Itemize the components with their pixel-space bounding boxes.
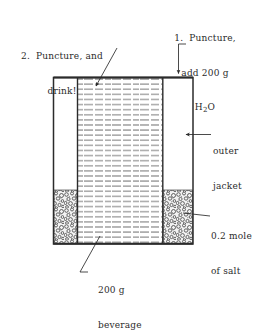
annotation-beverage-line-1: 200 g — [98, 285, 178, 297]
annotation-outer-jacket: outer jacket — [213, 123, 265, 215]
annotation-salt-line-2: of salt — [211, 266, 266, 278]
annotation-outer-jacket-line-2: jacket — [213, 181, 265, 193]
annotation-salt: 0.2 mole of salt — [211, 208, 266, 300]
annotation-step-1-line-1: 1. Puncture, — [166, 33, 244, 45]
salt-bed-left — [54, 190, 77, 244]
annotation-step-1-line-2: add 200 g — [166, 68, 244, 80]
water-formula-prefix: H — [195, 102, 203, 112]
annotation-outer-jacket-line-1: outer — [213, 146, 265, 158]
annotation-step-1: 1. Puncture, add 200 g H2O — [166, 10, 244, 139]
annotation-step-2-line-1: 2. Puncture, and — [6, 51, 118, 63]
annotation-salt-line-1: 0.2 mole — [211, 231, 266, 243]
annotation-beverage: 200 g beverage — [98, 262, 178, 334]
annotation-beverage-line-2: beverage — [98, 320, 178, 332]
annotation-step-2-line-2: drink! — [6, 86, 118, 98]
salt-bed-right — [163, 190, 193, 244]
annotation-step-2: 2. Puncture, and drink! — [6, 28, 118, 120]
annotation-step-1-line-3: H2O — [166, 102, 244, 116]
water-formula-suffix: O — [208, 102, 216, 112]
